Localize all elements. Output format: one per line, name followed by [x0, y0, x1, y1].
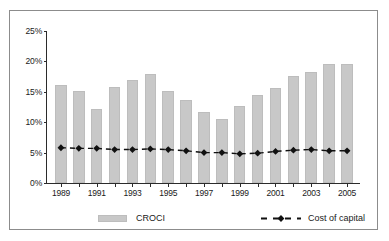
x-axis-label-slot: 1999 [231, 188, 249, 202]
bar-slot [70, 31, 88, 183]
chart-legend: CROCI Cost of capital [46, 210, 363, 226]
x-axis-label-slot [213, 188, 231, 202]
x-axis-label-slot: 1995 [159, 188, 177, 202]
y-axis-tick-label: 5% [30, 148, 42, 158]
x-axis-label-slot [177, 188, 195, 202]
x-axis-tick-label: 2003 [302, 188, 320, 198]
bar-1994 [145, 74, 156, 183]
bar-1999 [234, 106, 245, 183]
legend-item-cost-of-capital: Cost of capital [261, 213, 365, 223]
bar-slot [249, 31, 267, 183]
bar-2000 [252, 95, 263, 183]
x-axis-label-slot: 2001 [267, 188, 285, 202]
legend-label-cost-of-capital: Cost of capital [308, 213, 365, 223]
bar-1991 [91, 109, 102, 183]
legend-swatch-cost-of-capital-line [261, 214, 301, 223]
bar-1989 [55, 85, 66, 183]
x-axis-label-slot [141, 188, 159, 202]
y-axis-tick-label: 0% [30, 178, 42, 188]
bar-1996 [180, 100, 191, 183]
x-axis-labels: 198919911993199519971999200120032005 [47, 188, 360, 202]
bar-2001 [270, 88, 281, 183]
x-axis-tick-label: 1999 [231, 188, 249, 198]
bar-1992 [109, 87, 120, 183]
x-axis-tick-label: 1989 [52, 188, 70, 198]
bar-slot [177, 31, 195, 183]
bar-slot [302, 31, 320, 183]
x-axis-tick-label: 1995 [159, 188, 177, 198]
bar-slot [52, 31, 70, 183]
x-axis-label-slot: 1989 [52, 188, 70, 202]
y-axis-tick-label: 10% [26, 117, 42, 127]
bar-slot [267, 31, 285, 183]
x-axis-label-slot [70, 188, 88, 202]
legend-item-croci: CROCI [98, 213, 165, 223]
bar-2002 [288, 76, 299, 183]
y-axis-tick-label: 15% [26, 87, 42, 97]
bar-2003 [305, 72, 316, 183]
bar-slot [320, 31, 338, 183]
bar-slot [141, 31, 159, 183]
bar-2004 [323, 64, 334, 183]
bar-2005 [341, 64, 352, 183]
bar-slot [231, 31, 249, 183]
x-axis-label-slot [320, 188, 338, 202]
plot-area: 0%5%10%15%20%25% 19891991199319951997199… [46, 31, 360, 184]
x-axis-label-slot: 1997 [195, 188, 213, 202]
bar-1993 [127, 80, 138, 183]
bar-slot [213, 31, 231, 183]
chart-figure: 0%5%10%15%20%25% 19891991199319951997199… [9, 10, 378, 230]
bar-slot [284, 31, 302, 183]
bar-slot [88, 31, 106, 183]
bar-1990 [73, 91, 84, 183]
legend-swatch-croci-bar [98, 215, 127, 222]
y-axis-tick-label: 25% [26, 26, 42, 36]
x-axis-tick-label: 1991 [88, 188, 106, 198]
x-axis-tick-label: 2005 [338, 188, 356, 198]
bar-slot [338, 31, 356, 183]
x-axis-label-slot: 2003 [302, 188, 320, 202]
x-axis-label-slot: 1993 [124, 188, 142, 202]
legend-label-croci: CROCI [136, 213, 165, 223]
bar-1995 [162, 91, 173, 183]
bar-slot [195, 31, 213, 183]
bar-1997 [198, 112, 209, 183]
x-axis-label-slot [249, 188, 267, 202]
x-axis-tick-label: 1997 [195, 188, 213, 198]
x-axis-label-slot: 1991 [88, 188, 106, 202]
bar-slot [106, 31, 124, 183]
bar-series-croci [47, 31, 360, 183]
x-axis-tick-label: 1993 [123, 188, 141, 198]
x-axis-label-slot [284, 188, 302, 202]
x-axis-label-slot: 2005 [338, 188, 356, 202]
bar-slot [124, 31, 142, 183]
bar-slot [159, 31, 177, 183]
bar-1998 [216, 119, 227, 183]
x-axis-label-slot [106, 188, 124, 202]
x-axis-tick-label: 2001 [266, 188, 284, 198]
y-axis-tick-label: 20% [26, 56, 42, 66]
